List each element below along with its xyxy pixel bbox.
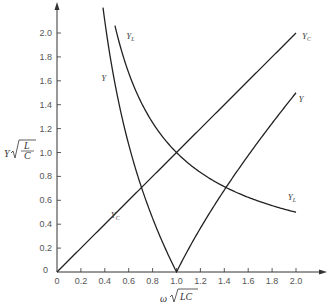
curves bbox=[57, 8, 296, 272]
x-tick-label: 1.6 bbox=[242, 276, 255, 286]
x-ticks: 00.20.40.60.81.01.21.41.61.82.0 bbox=[54, 268, 302, 286]
x-title-main: ω bbox=[160, 293, 167, 304]
x-tick-label: 1.4 bbox=[218, 276, 231, 286]
curve-label: YL bbox=[126, 31, 135, 42]
x-tick-label: 2.0 bbox=[290, 276, 303, 286]
y-tick-label: 1.2 bbox=[39, 124, 52, 134]
y-tick-label: 0.2 bbox=[39, 243, 52, 253]
curve-y bbox=[103, 8, 296, 272]
curve-label: Y bbox=[298, 94, 304, 104]
y-tick-label: 0.6 bbox=[39, 195, 52, 205]
y-title-main: Y bbox=[4, 148, 11, 159]
x-tick-label: 0.4 bbox=[99, 276, 112, 286]
admittance-chart: 00.20.40.60.81.01.21.41.61.82.0 00.20.40… bbox=[0, 0, 329, 307]
x-tick-label: 1.0 bbox=[170, 276, 183, 286]
y-tick-label: 0.8 bbox=[39, 171, 52, 181]
y-tick-label: 1.0 bbox=[39, 148, 52, 158]
y-axis-arrow-icon bbox=[55, 2, 60, 10]
x-tick-label: 0.8 bbox=[146, 276, 159, 286]
x-axis-arrow-icon bbox=[319, 270, 327, 275]
y-tick-label: 1.6 bbox=[39, 76, 52, 86]
curve-label: YC bbox=[302, 31, 312, 42]
x-tick-label: 0 bbox=[54, 276, 59, 286]
y-tick-label: 0 bbox=[43, 265, 48, 275]
curve-labels: YCYCYLYLYY bbox=[101, 31, 312, 221]
y-title-denominator: C bbox=[24, 150, 31, 161]
y-axis-title: Y L C bbox=[4, 140, 36, 161]
x-axis-title: ω LC bbox=[160, 289, 198, 304]
y-tick-label: 1.4 bbox=[39, 100, 52, 110]
x-tick-label: 1.8 bbox=[266, 276, 279, 286]
curve-label: YL bbox=[288, 192, 297, 203]
y-tick-label: 2.0 bbox=[39, 28, 52, 38]
curve-label: YC bbox=[111, 210, 121, 221]
x-title-root: LC bbox=[179, 291, 193, 302]
x-tick-label: 0.2 bbox=[75, 276, 88, 286]
y-ticks: 00.20.40.60.81.01.21.41.61.82.0 bbox=[39, 28, 61, 275]
x-tick-label: 0.6 bbox=[122, 276, 135, 286]
x-tick-label: 1.2 bbox=[194, 276, 207, 286]
y-tick-label: 1.8 bbox=[39, 52, 52, 62]
curve-y-l bbox=[115, 26, 296, 213]
y-tick-label: 0.4 bbox=[39, 219, 52, 229]
curve-label: Y bbox=[101, 73, 107, 83]
